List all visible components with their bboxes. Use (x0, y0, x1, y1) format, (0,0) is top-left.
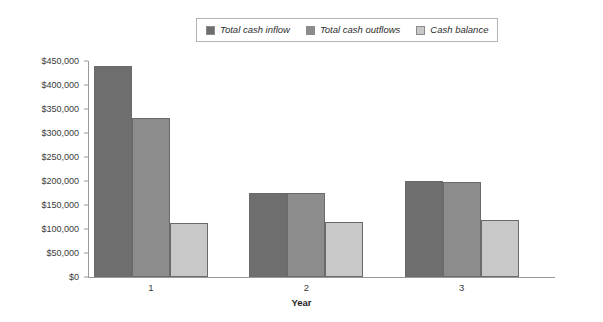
x-axis-tick-label: 2 (304, 283, 309, 293)
bar-total-cash-outflows-year-1 (132, 118, 170, 277)
y-axis-tick-label: $300,000 (41, 129, 83, 138)
legend-item-total-cash-inflow: Total cash inflow (206, 25, 290, 35)
y-axis-tick-label: $50,000 (46, 249, 83, 258)
chart-legend: Total cash inflow Total cash outflows Ca… (196, 18, 498, 42)
legend-item-total-cash-outflows: Total cash outflows (306, 25, 400, 35)
x-axis-tick-label: 1 (148, 283, 153, 293)
y-axis-tick-label: $150,000 (41, 201, 83, 210)
legend-swatch-icon (206, 26, 215, 35)
bar-total-cash-outflows-year-2 (287, 193, 325, 277)
bar-total-cash-inflow-year-3 (405, 181, 443, 277)
y-axis-tick-label: $400,000 (41, 81, 83, 90)
y-axis-tick-label: $350,000 (41, 105, 83, 114)
y-axis-tick-label: $0 (69, 273, 83, 282)
y-axis-tick-label: $250,000 (41, 153, 83, 162)
bar-cash-balance-year-2 (325, 222, 363, 277)
bar-cash-balance-year-3 (481, 220, 519, 277)
x-axis-line (88, 277, 555, 278)
x-axis-tick-label: 3 (459, 283, 464, 293)
legend-label: Total cash inflow (220, 25, 290, 35)
y-axis-tick-label: $450,000 (41, 57, 83, 66)
legend-label: Cash balance (430, 25, 488, 35)
legend-swatch-icon (416, 26, 425, 35)
x-axis-title: Year (0, 297, 603, 308)
bar-chart: Total cash inflow Total cash outflows Ca… (0, 0, 603, 322)
legend-label: Total cash outflows (320, 25, 400, 35)
legend-swatch-icon (306, 26, 315, 35)
y-axis-tick-label: $100,000 (41, 225, 83, 234)
bar-total-cash-inflow-year-2 (249, 193, 287, 277)
y-axis-tick-label: $200,000 (41, 177, 83, 186)
bar-total-cash-inflow-year-1 (94, 66, 132, 277)
legend-item-cash-balance: Cash balance (416, 25, 488, 35)
bar-total-cash-outflows-year-3 (443, 182, 481, 277)
bar-cash-balance-year-1 (170, 223, 208, 277)
plot-area (88, 61, 554, 277)
